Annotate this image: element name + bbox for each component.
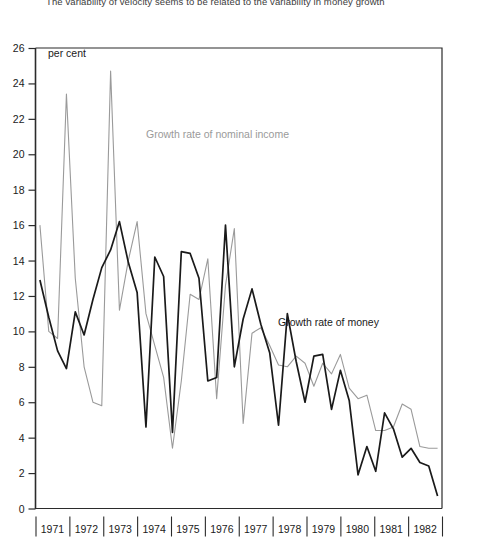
series-label-money: Growth rate of money [278, 316, 380, 328]
x-year-label: 1973 [109, 523, 133, 535]
line-chart: 02468101214161820222426 1971197219731974… [0, 0, 477, 549]
x-year-label: 1981 [380, 523, 404, 535]
series-line-money [40, 222, 438, 497]
y-tick-label: 22 [13, 113, 25, 125]
y-tick-label: 20 [13, 148, 25, 160]
unit-label: per cent [48, 47, 86, 59]
x-year-label: 1972 [75, 523, 99, 535]
x-year-label: 1980 [346, 523, 370, 535]
x-year-label: 1978 [278, 523, 302, 535]
y-tick-label: 18 [13, 184, 25, 196]
x-year-label: 1982 [413, 523, 437, 535]
x-year-label: 1976 [210, 523, 234, 535]
y-tick-label: 0 [19, 503, 25, 515]
x-year-label: 1979 [312, 523, 336, 535]
x-year-label: 1974 [142, 523, 166, 535]
y-tick-label: 26 [13, 42, 25, 54]
x-year-label: 1975 [176, 523, 200, 535]
y-tick-label: 12 [13, 290, 25, 302]
series-label-nominal-income: Growth rate of nominal income [146, 128, 289, 140]
y-tick-label: 8 [19, 361, 25, 373]
y-tick-label: 4 [19, 432, 25, 444]
y-tick-label: 14 [13, 255, 25, 267]
x-year-label: 1971 [41, 523, 65, 535]
y-tick-label: 10 [13, 325, 25, 337]
x-year-label: 1977 [244, 523, 268, 535]
chart-container: 02468101214161820222426 1971197219731974… [0, 0, 477, 549]
y-tick-label: 24 [13, 77, 25, 89]
y-tick-label: 16 [13, 219, 25, 231]
y-tick-label: 6 [19, 396, 25, 408]
y-tick-label: 2 [19, 467, 25, 479]
y-axis-ticks: 02468101214161820222426 [13, 42, 36, 515]
